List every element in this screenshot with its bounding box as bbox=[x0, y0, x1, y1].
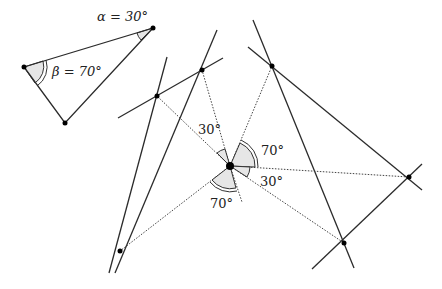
wedge-upper-right-70 bbox=[230, 143, 255, 167]
triangle-vertex-bottom bbox=[63, 121, 68, 126]
point-p5 bbox=[342, 241, 347, 246]
label-70-upper-right: 70° bbox=[261, 143, 284, 158]
point-p4 bbox=[407, 175, 412, 180]
triangle-vertex-alpha bbox=[151, 26, 156, 31]
point-p1 bbox=[155, 94, 160, 99]
beta-label: β = 70° bbox=[51, 64, 102, 79]
center-point bbox=[226, 162, 234, 170]
line-lower-right bbox=[312, 164, 422, 269]
label-30-right: 30° bbox=[260, 174, 283, 189]
point-p2 bbox=[200, 68, 205, 73]
point-p6 bbox=[118, 249, 123, 254]
wedge-lower-70 bbox=[212, 166, 236, 189]
label-70-lower: 70° bbox=[210, 196, 233, 211]
center-angle-marks bbox=[210, 140, 258, 192]
ray-to-p4 bbox=[230, 166, 409, 177]
geometry-diagram: α = 30° β = 70° 3 bbox=[0, 0, 442, 289]
intersection-points bbox=[118, 64, 412, 254]
label-30-upper-left: 30° bbox=[198, 122, 221, 137]
line-left-long bbox=[115, 30, 217, 273]
point-p3 bbox=[270, 64, 275, 69]
line-right-diagonal bbox=[248, 47, 422, 190]
line-left-steep bbox=[109, 57, 167, 273]
alpha-label: α = 30° bbox=[97, 9, 148, 24]
triangle-vertex-beta bbox=[22, 65, 27, 70]
